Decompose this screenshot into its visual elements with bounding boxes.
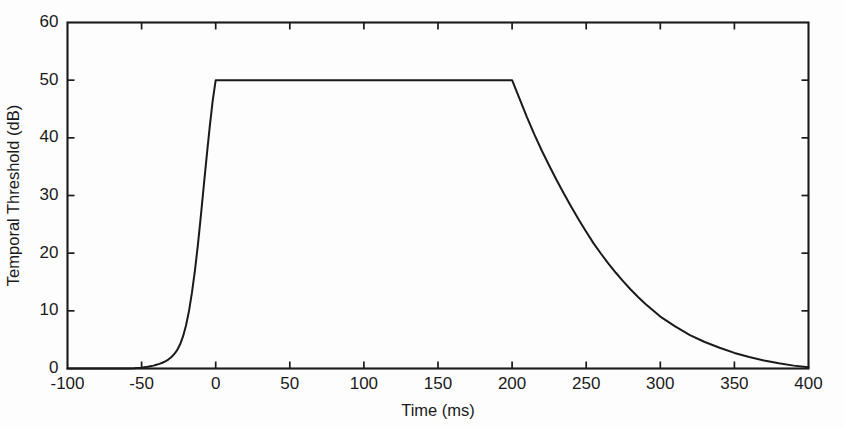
y-axis-title: Temporal Threshold (dB): [4, 105, 22, 286]
x-axis-tick-label: 100: [350, 374, 378, 393]
y-axis-tick-label: 0: [49, 358, 58, 377]
y-axis-tick-label: 10: [40, 300, 59, 319]
x-axis-tick-label: 400: [794, 374, 822, 393]
x-axis-tick-label: 50: [280, 374, 299, 393]
x-axis-tick-label: -50: [129, 374, 154, 393]
x-axis-tick-label: 350: [720, 374, 748, 393]
x-axis-tick-label: 0: [211, 374, 220, 393]
x-axis-tick-label: 200: [498, 374, 526, 393]
chart-figure: -100-50050100150200250300350400010203040…: [0, 0, 844, 428]
plot-frame: [68, 23, 809, 369]
x-axis-tick-label: 250: [572, 374, 600, 393]
plot-area: -100-50050100150200250300350400010203040…: [4, 12, 823, 419]
x-axis-title: Time (ms): [401, 401, 475, 419]
y-axis-tick-label: 30: [40, 185, 59, 204]
x-axis-tick-label: 150: [424, 374, 452, 393]
chart-svg: -100-50050100150200250300350400010203040…: [0, 0, 844, 428]
y-axis-tick-label: 20: [40, 243, 59, 262]
y-axis-tick-label: 60: [40, 12, 59, 31]
data-series-line: [68, 80, 809, 368]
x-axis-tick-label: 300: [646, 374, 674, 393]
y-axis-tick-label: 40: [40, 127, 59, 146]
y-axis-tick-label: 50: [40, 70, 59, 89]
